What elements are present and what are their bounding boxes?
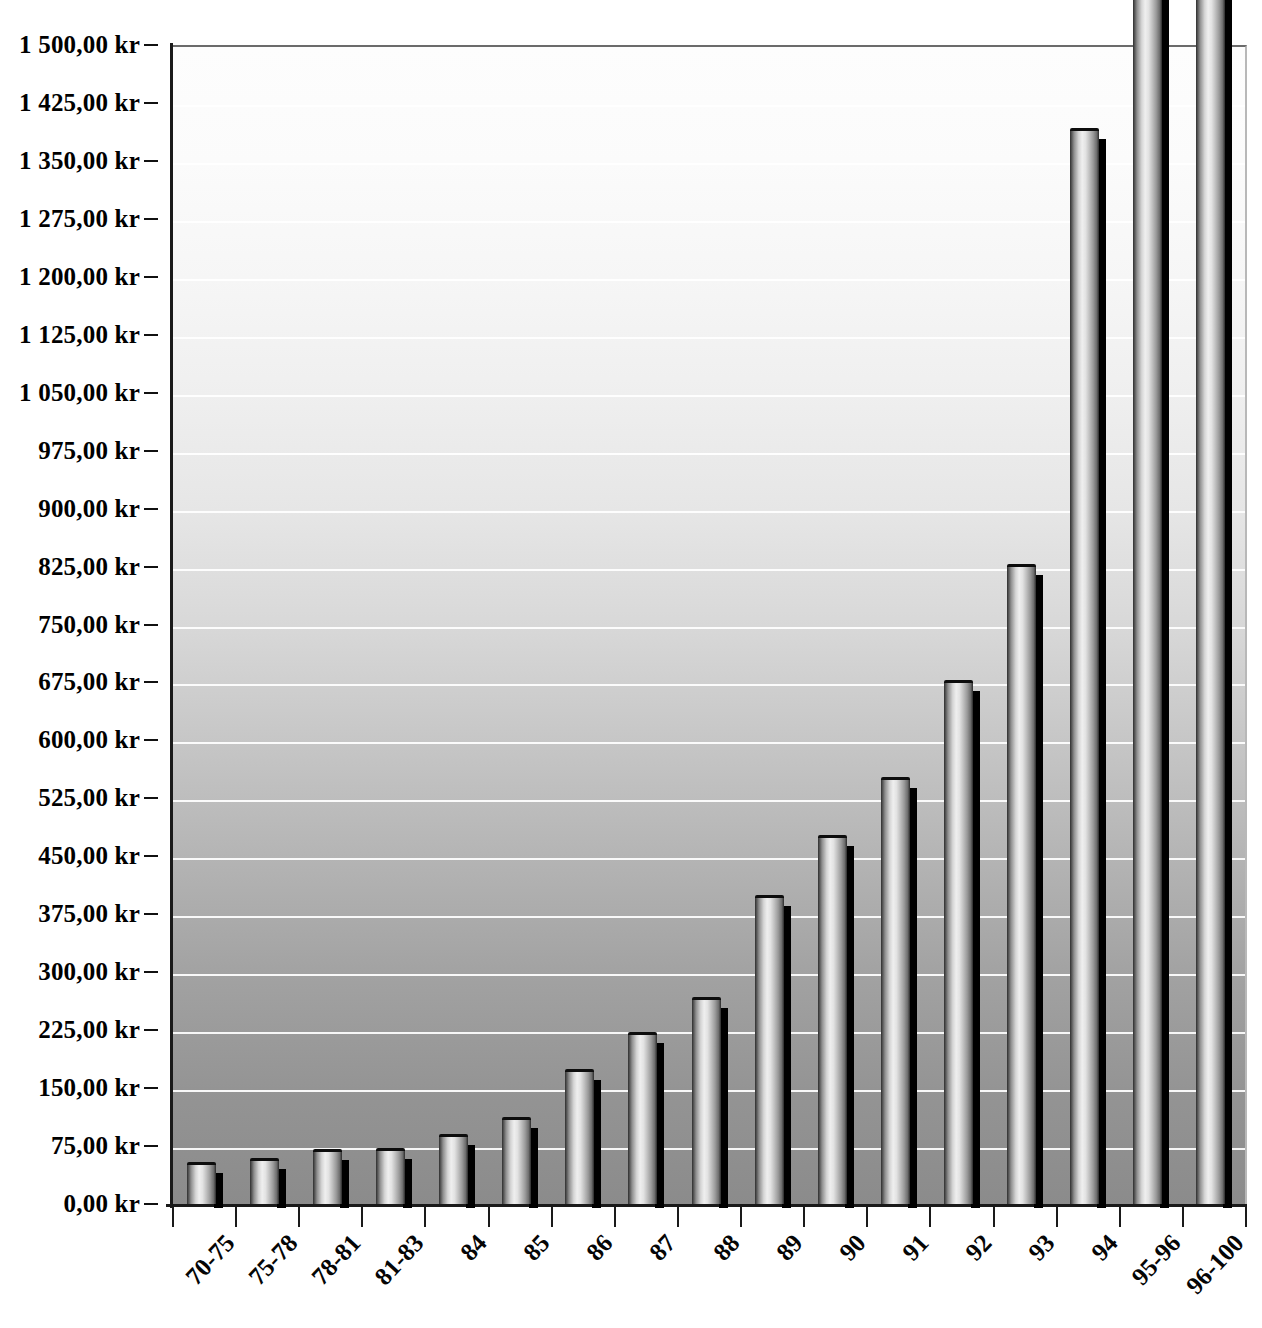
y-axis-tick-label: 1 050,00 kr xyxy=(19,379,140,407)
gridline xyxy=(172,1090,1245,1092)
y-axis-tick-label: 600,00 kr xyxy=(38,726,140,754)
y-axis-tick-label: 225,00 kr xyxy=(38,1016,140,1044)
gridline xyxy=(172,1032,1245,1034)
gridline xyxy=(172,569,1245,571)
x-axis-tick-mark xyxy=(1245,1207,1247,1227)
gridline xyxy=(172,511,1245,513)
x-axis-tick-mark xyxy=(235,1207,237,1227)
y-axis-tick-label: 1 275,00 kr xyxy=(19,205,140,233)
x-axis-tick-mark xyxy=(424,1207,426,1227)
y-axis-tick-mark xyxy=(144,508,158,510)
y-axis-tick-mark xyxy=(144,797,158,799)
y-axis-tick-mark xyxy=(144,218,158,220)
x-axis-tick-mark xyxy=(614,1207,616,1227)
y-axis-tick-label: 75,00 kr xyxy=(51,1132,140,1160)
gridline xyxy=(172,337,1245,339)
x-axis-tick-mark xyxy=(803,1207,805,1227)
x-axis-tick-mark xyxy=(677,1207,679,1227)
x-axis-tick-mark xyxy=(361,1207,363,1227)
x-axis-tick-mark xyxy=(172,1207,174,1227)
gridline xyxy=(172,974,1245,976)
y-axis-tick-label: 900,00 kr xyxy=(38,495,140,523)
y-axis-tick-mark xyxy=(144,1029,158,1031)
y-axis-tick-label: 1 500,00 kr xyxy=(19,31,140,59)
x-axis-tick-mark xyxy=(929,1207,931,1227)
y-axis-tick-mark xyxy=(144,102,158,104)
gridline xyxy=(172,221,1245,223)
gridline xyxy=(172,453,1245,455)
y-axis-tick-mark xyxy=(144,739,158,741)
gridline xyxy=(172,279,1245,281)
y-axis-tick-label: 150,00 kr xyxy=(38,1074,140,1102)
bar-chart: 1 500,00 kr1 425,00 kr1 350,00 kr1 275,0… xyxy=(0,0,1262,1328)
y-axis-tick-label: 0,00 kr xyxy=(64,1190,140,1218)
y-axis: 1 500,00 kr1 425,00 kr1 350,00 kr1 275,0… xyxy=(0,0,166,1328)
gridline xyxy=(172,627,1245,629)
x-axis-tick-mark xyxy=(298,1207,300,1227)
gridlines xyxy=(172,47,1245,1206)
y-axis-tick-mark xyxy=(144,566,158,568)
plot-area xyxy=(172,45,1247,1206)
y-axis-tick-label: 525,00 kr xyxy=(38,784,140,812)
y-axis-tick-label: 750,00 kr xyxy=(38,611,140,639)
y-axis-tick-mark xyxy=(144,392,158,394)
y-axis-tick-label: 975,00 kr xyxy=(38,437,140,465)
x-axis-tick-mark xyxy=(740,1207,742,1227)
x-axis-tick-mark xyxy=(993,1207,995,1227)
y-axis-tick-label: 1 425,00 kr xyxy=(19,89,140,117)
y-axis-tick-mark xyxy=(144,160,158,162)
gridline xyxy=(172,858,1245,860)
y-axis-tick-label: 675,00 kr xyxy=(38,668,140,696)
gridline xyxy=(172,1148,1245,1150)
y-axis-tick-label: 300,00 kr xyxy=(38,958,140,986)
gridline xyxy=(172,395,1245,397)
gridline xyxy=(172,684,1245,686)
y-axis-tick-mark xyxy=(144,276,158,278)
x-axis: 70-7575-7878-8181-8384858687888990919293… xyxy=(172,1229,1245,1328)
y-axis-tick-mark xyxy=(144,1203,158,1205)
x-axis-tick-mark xyxy=(866,1207,868,1227)
y-axis-tick-label: 1 125,00 kr xyxy=(19,321,140,349)
y-axis-tick-mark xyxy=(144,971,158,973)
y-axis-tick-mark xyxy=(144,855,158,857)
gridline xyxy=(172,742,1245,744)
x-axis-tick-mark xyxy=(1119,1207,1121,1227)
x-axis-ticks xyxy=(172,1207,1245,1229)
y-axis-tick-mark xyxy=(144,1087,158,1089)
y-axis-tick-mark xyxy=(144,450,158,452)
gridline xyxy=(172,163,1245,165)
x-axis-tick-mark xyxy=(1056,1207,1058,1227)
gridline xyxy=(172,916,1245,918)
y-axis-line xyxy=(170,43,173,1208)
x-axis-tick-mark xyxy=(551,1207,553,1227)
y-axis-tick-mark xyxy=(144,44,158,46)
plot-clip xyxy=(172,47,1245,1206)
x-axis-tick-mark xyxy=(488,1207,490,1227)
y-axis-tick-label: 450,00 kr xyxy=(38,842,140,870)
y-axis-tick-mark xyxy=(144,681,158,683)
y-axis-tick-label: 375,00 kr xyxy=(38,900,140,928)
gridline xyxy=(172,800,1245,802)
y-axis-tick-mark xyxy=(144,334,158,336)
y-axis-tick-label: 1 350,00 kr xyxy=(19,147,140,175)
y-axis-tick-label: 1 200,00 kr xyxy=(19,263,140,291)
y-axis-tick-label: 825,00 kr xyxy=(38,553,140,581)
x-axis-tick-mark xyxy=(1182,1207,1184,1227)
gridline xyxy=(172,105,1245,107)
y-axis-tick-mark xyxy=(144,1145,158,1147)
y-axis-tick-mark xyxy=(144,913,158,915)
y-axis-tick-mark xyxy=(144,624,158,626)
